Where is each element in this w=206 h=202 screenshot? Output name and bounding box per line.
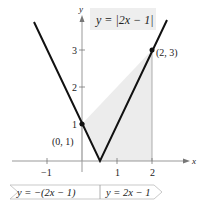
point-2-3-label: (2, 3) xyxy=(156,47,178,59)
left-piece-label: y = −(2x − 1) xyxy=(16,187,76,199)
y-axis-label: y xyxy=(78,4,83,14)
chart-title: y = |2x − 1| xyxy=(95,13,153,27)
point-2-3 xyxy=(150,48,155,53)
chart-canvas: y = |2x − 1| x y −1 1 2 1 2 3 (0, 1) (2,… xyxy=(0,0,206,202)
x-axis-arrow-icon xyxy=(183,159,190,164)
x-tick-label: 2 xyxy=(150,167,155,178)
y-tick-label: 1 xyxy=(72,119,77,130)
y-tick-label: 2 xyxy=(72,82,77,93)
right-piece-label: y = 2x − 1 xyxy=(105,187,151,198)
x-tick-label: 1 xyxy=(115,167,120,178)
y-tick-label: 3 xyxy=(72,45,77,56)
point-0-1 xyxy=(80,122,85,127)
x-tick-label: −1 xyxy=(41,167,52,178)
point-0-1-label: (0, 1) xyxy=(52,136,74,148)
y-axis-arrow-icon xyxy=(80,15,85,22)
x-axis-label: x xyxy=(191,156,196,166)
